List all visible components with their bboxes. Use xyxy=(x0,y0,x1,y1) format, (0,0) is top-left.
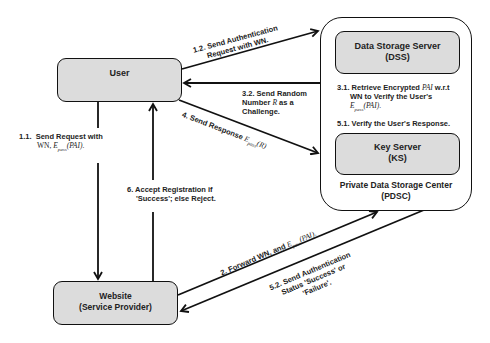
step-3-1-args: (PAI) xyxy=(364,101,380,110)
step-1-1-text: Send Request with xyxy=(36,132,103,141)
step-3-1-text: 3.1. Retrieve Encrypted xyxy=(337,83,422,92)
step-3-1-sub: pass xyxy=(355,107,364,112)
website-label-line2: (Service Provider) xyxy=(54,302,177,313)
step-1-1-label: 1.1. Send Request with WN, Epass(PAI). xyxy=(19,132,103,154)
step-3-1-period: . xyxy=(379,101,381,110)
step-3-2-label: 3.2. Send Random Number R as a Challenge… xyxy=(242,89,307,116)
user-label: User xyxy=(58,67,181,79)
dss-node[interactable]: Data Storage Server (DSS) xyxy=(335,31,460,74)
step-3-1-line2: WN to Verify the User's xyxy=(337,92,450,101)
step-3-1-label: 3.1. Retrieve Encrypted PAI w.r.t WN to … xyxy=(337,83,450,114)
step-3-1-line1: 3.1. Retrieve Encrypted PAI w.r.t xyxy=(337,83,450,92)
step-1-1-num: 1.1. xyxy=(19,132,32,141)
step-6-line1: 6. Accept Registration if xyxy=(127,185,216,194)
step-1-1-args: (PAI) xyxy=(67,141,83,150)
ks-node[interactable]: Key Server (KS) xyxy=(335,133,460,175)
step-6-label: 6. Accept Registration if 'Success'; els… xyxy=(127,185,216,203)
pdsc-label-line2: (PDSC) xyxy=(320,191,472,202)
step-1-1-line2: WN, Epass(PAI). xyxy=(19,141,103,154)
website-node[interactable]: Website (Service Provider) xyxy=(53,281,178,325)
step-3-2-line1: 3.2. Send Random xyxy=(242,89,307,98)
step-1-1-wn: WN, xyxy=(37,141,53,150)
step-3-1-math-pai: PAI xyxy=(422,83,433,92)
step-1-1-period: . xyxy=(82,141,84,150)
step-3-1-line3: Epass(PAI). xyxy=(337,101,450,114)
step-3-2-suffix: as a xyxy=(277,98,294,107)
step-5-1-label: 5.1. Verify the User's Response. xyxy=(337,119,450,128)
pdsc-label-line1: Private Data Storage Center xyxy=(320,180,472,191)
dss-label-line1: Data Storage Server xyxy=(336,41,459,52)
step-1-1-line1: 1.1. Send Request with xyxy=(19,132,103,141)
website-label-line1: Website xyxy=(54,291,177,302)
dss-label-line2: (DSS) xyxy=(336,52,459,63)
step-3-2-line2: Number R as a xyxy=(242,98,307,107)
ks-label-line1: Key Server xyxy=(336,142,459,153)
user-node[interactable]: User xyxy=(57,58,182,102)
step-3-1-suffix: w.r.t xyxy=(433,83,450,92)
ks-label-line2: (KS) xyxy=(336,153,459,164)
step-6-line2: 'Success'; else Reject. xyxy=(127,194,216,203)
pdsc-label: Private Data Storage Center (PDSC) xyxy=(320,180,472,202)
step-5-1-text: 5.1. Verify the User's Response. xyxy=(337,119,450,128)
step-3-2-text: Number xyxy=(242,98,272,107)
step-1-1-sub: pass xyxy=(58,147,67,152)
step-3-2-line3: Challenge. xyxy=(242,107,307,116)
